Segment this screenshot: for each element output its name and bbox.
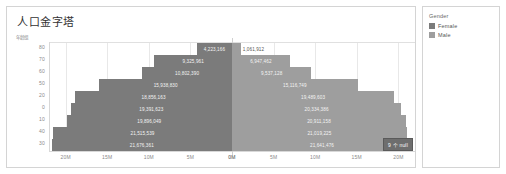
y-tick-label: 40 bbox=[19, 128, 45, 134]
bar-value-label: 19,489,603 bbox=[301, 95, 325, 100]
bar-value-label: 19,896,049 bbox=[137, 119, 161, 124]
y-tick-label: 30 bbox=[19, 140, 45, 146]
x-tick-label: 5M bbox=[187, 154, 194, 160]
legend-swatch-male-icon bbox=[429, 32, 435, 38]
bar-male[interactable]: 21,019,225 bbox=[232, 127, 407, 139]
bar-value-label: 20,911,158 bbox=[307, 119, 331, 124]
pyramid-row: 4021,515,53921,019,225 bbox=[49, 127, 415, 139]
bar-female[interactable]: 10,802,390 bbox=[142, 67, 232, 79]
chart-panel: 人口金字塔 年龄组 804,223,1661,061,912709,325,96… bbox=[6, 6, 416, 168]
pyramid-row: 2018,856,16319,489,603 bbox=[49, 91, 415, 103]
bar-value-label: 18,856,163 bbox=[142, 95, 166, 100]
pyramid-row: 3021,676,36121,641,476 bbox=[49, 139, 415, 151]
bar-value-label: 21,641,476 bbox=[310, 143, 334, 148]
y-axis-title: 年龄组 bbox=[16, 34, 29, 40]
legend-label-male: Male bbox=[438, 32, 451, 38]
legend-swatch-female-icon bbox=[429, 23, 435, 29]
bar-value-label: 9,325,961 bbox=[183, 59, 204, 64]
bar-male[interactable]: 19,489,603 bbox=[232, 91, 394, 103]
legend-title: Gender bbox=[429, 13, 493, 19]
bar-female[interactable]: 15,938,830 bbox=[99, 79, 232, 91]
bar-female[interactable]: 21,676,361 bbox=[52, 139, 232, 151]
legend-item-female[interactable]: Female bbox=[429, 23, 493, 29]
plot-area: 804,223,1661,061,912709,325,9616,947,462… bbox=[49, 43, 415, 151]
y-tick-label: 70 bbox=[19, 56, 45, 62]
bar-female[interactable]: 21,515,539 bbox=[53, 127, 232, 139]
x-tick-label: 20M bbox=[60, 154, 70, 160]
x-axis-ticks: 20M15M10M5M0M0M5M10M15M20M bbox=[49, 154, 415, 166]
legend-panel: Gender Female Male bbox=[422, 6, 500, 168]
y-tick-label: 50 bbox=[19, 80, 45, 86]
y-tick-label: 20 bbox=[19, 92, 45, 98]
bar-male[interactable]: 20,334,386 bbox=[232, 103, 401, 115]
bar-value-label: 6,947,462 bbox=[250, 59, 271, 64]
bar-value-label: 15,938,830 bbox=[154, 83, 178, 88]
x-tick-label: 15M bbox=[352, 154, 362, 160]
bar-female[interactable]: 9,325,961 bbox=[154, 55, 232, 67]
bar-male[interactable]: 15,116,749 bbox=[232, 79, 358, 91]
null-count-badge[interactable]: 9 个 null bbox=[383, 138, 413, 151]
pyramid-row: 6010,802,3909,537,128 bbox=[49, 67, 415, 79]
y-tick-label: 10 bbox=[19, 116, 45, 122]
bar-female[interactable]: 19,391,623 bbox=[71, 103, 232, 115]
bar-male[interactable]: 6,947,462 bbox=[232, 55, 290, 67]
population-pyramid-viz: 人口金字塔 年龄组 804,223,1661,061,912709,325,96… bbox=[0, 0, 506, 174]
bar-value-label: 4,223,166 bbox=[204, 47, 225, 52]
pyramid-row: 804,223,1661,061,912 bbox=[49, 43, 415, 55]
x-tick-label: 5M bbox=[270, 154, 277, 160]
bar-value-label: 15,116,749 bbox=[283, 83, 307, 88]
pyramid-row: 019,391,62320,334,386 bbox=[49, 103, 415, 115]
bar-value-label: 1,061,912 bbox=[243, 47, 264, 52]
y-tick-label: 60 bbox=[19, 68, 45, 74]
bar-female[interactable]: 18,856,163 bbox=[75, 91, 232, 103]
pyramid-row: 709,325,9616,947,462 bbox=[49, 55, 415, 67]
page-title: 人口金字塔 bbox=[17, 13, 75, 29]
y-tick-label: 0 bbox=[19, 104, 45, 110]
bar-value-label: 20,334,386 bbox=[305, 107, 329, 112]
bar-value-label: 9,537,128 bbox=[261, 71, 282, 76]
bar-male[interactable]: 9,537,128 bbox=[232, 67, 311, 79]
x-tick-label: 20M bbox=[393, 154, 403, 160]
y-tick-label: 80 bbox=[19, 44, 45, 50]
legend-label-female: Female bbox=[438, 23, 458, 29]
bar-female[interactable]: 19,896,049 bbox=[67, 115, 232, 127]
bar-value-label: 10,802,390 bbox=[175, 71, 199, 76]
x-tick-label: 15M bbox=[102, 154, 112, 160]
legend-item-male[interactable]: Male bbox=[429, 32, 493, 38]
bar-male[interactable]: 20,911,158 bbox=[232, 115, 406, 127]
bar-male[interactable]: 1,061,912 bbox=[232, 43, 241, 55]
bar-female[interactable]: 4,223,166 bbox=[197, 43, 232, 55]
x-tick-label: 10M bbox=[144, 154, 154, 160]
bar-value-label: 21,019,225 bbox=[307, 131, 331, 136]
pyramid-row: 5015,938,83015,116,749 bbox=[49, 79, 415, 91]
bar-value-label: 19,391,623 bbox=[139, 107, 163, 112]
x-tick-label: 0M bbox=[228, 154, 235, 160]
bar-value-label: 21,676,361 bbox=[130, 143, 154, 148]
pyramid-row: 1019,896,04920,911,158 bbox=[49, 115, 415, 127]
bar-value-label: 21,515,539 bbox=[131, 131, 155, 136]
x-tick-label: 10M bbox=[310, 154, 320, 160]
